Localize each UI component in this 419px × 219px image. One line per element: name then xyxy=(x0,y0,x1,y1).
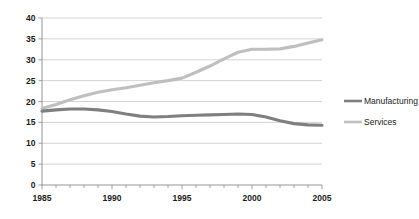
y-tick-label-0: 0 xyxy=(31,180,36,190)
legend-label-manufacturing: Manufacturing xyxy=(364,96,418,106)
chart-legend: ManufacturingServices xyxy=(344,96,418,127)
x-tick-label-2005: 2005 xyxy=(313,193,332,203)
x-tick-label-2000: 2000 xyxy=(243,193,262,203)
y-tick-label-10: 10 xyxy=(26,138,36,148)
y-tick-label-40: 40 xyxy=(26,13,36,23)
y-tick-label-5: 5 xyxy=(31,159,36,169)
x-tick-label-1995: 1995 xyxy=(173,193,192,203)
y-tick-label-25: 25 xyxy=(26,76,36,86)
y-axis-tick-marks xyxy=(39,18,43,185)
y-axis-tick-labels: 0510152025303540 xyxy=(26,13,36,190)
x-axis-tick-labels: 19851990199520002005 xyxy=(33,193,332,203)
y-tick-label-15: 15 xyxy=(26,117,36,127)
series-line-manufacturing xyxy=(42,109,322,125)
chart-canvas: 0510152025303540 19851990199520002005 Ma… xyxy=(0,0,419,219)
line-chart: 0510152025303540 19851990199520002005 Ma… xyxy=(0,0,419,219)
y-tick-label-30: 30 xyxy=(26,55,36,65)
y-tick-label-35: 35 xyxy=(26,34,36,44)
series-line-services xyxy=(42,40,322,109)
y-tick-label-20: 20 xyxy=(26,97,36,107)
gridlines xyxy=(42,18,322,164)
x-axis-tick-marks xyxy=(42,185,322,190)
data-series-lines xyxy=(42,40,322,126)
x-tick-label-1985: 1985 xyxy=(33,193,52,203)
legend-label-services: Services xyxy=(364,117,397,127)
x-tick-label-1990: 1990 xyxy=(103,193,122,203)
